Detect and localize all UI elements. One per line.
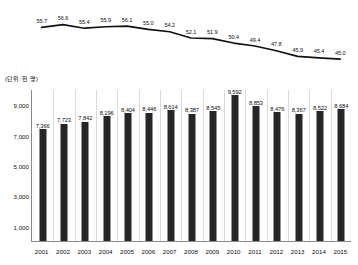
line-value-label: 55.9 xyxy=(100,19,111,25)
bar-value-label: 9,592 xyxy=(228,89,242,95)
gridline-vertical xyxy=(139,90,140,241)
x-axis-tick: 2004 xyxy=(99,248,113,255)
line-value-label: 45.9 xyxy=(292,48,303,54)
gridline-vertical xyxy=(245,90,246,241)
bar xyxy=(167,110,174,241)
bar-value-label: 8,404 xyxy=(121,107,135,113)
line-chart-panel: 55.756.655.455.956.155.054.252.151.950.4… xyxy=(0,0,358,68)
line-value-label: 56.6 xyxy=(58,17,69,23)
line-value-label: 50.4 xyxy=(228,35,239,41)
bar xyxy=(82,122,89,241)
bar xyxy=(210,111,217,241)
bar-value-label: 8,446 xyxy=(142,106,156,112)
x-axis-tick: 2012 xyxy=(269,248,283,255)
line-value-label: 47.8 xyxy=(271,43,282,49)
x-axis-tick: 2007 xyxy=(163,248,177,255)
gridline-vertical xyxy=(331,90,332,241)
y-axis-tick: 7,000 xyxy=(14,132,29,139)
gridline-vertical xyxy=(309,90,310,241)
bar xyxy=(125,113,132,241)
x-axis-tick: 2001 xyxy=(35,248,49,255)
x-axis-tick: 2011 xyxy=(248,248,261,255)
line-value-label: 54.2 xyxy=(164,24,175,30)
bar-value-label: 8,196 xyxy=(100,110,114,116)
bar-chart-panel: 1,0003,0005,0007,0009,0007,3667,7237,842… xyxy=(0,86,358,265)
trend-line-svg xyxy=(0,0,358,68)
x-axis-tick: 2015 xyxy=(333,248,347,255)
bar xyxy=(146,113,153,241)
bar xyxy=(295,114,302,241)
x-axis-tick: 2013 xyxy=(291,248,305,255)
x-axis-tick: 2008 xyxy=(184,248,198,255)
bar-value-label: 8,853 xyxy=(249,100,263,106)
gridline-vertical xyxy=(117,90,118,241)
x-axis-tick: 2002 xyxy=(56,248,70,255)
bar-value-label: 8,545 xyxy=(206,105,220,111)
bar xyxy=(253,106,260,241)
y-axis-tick: 3,000 xyxy=(14,193,29,200)
bar-value-label: 8,367 xyxy=(292,107,306,113)
y-axis-tick: 9,000 xyxy=(14,102,29,109)
line-value-label: 55.0 xyxy=(143,21,154,27)
gridline-vertical xyxy=(181,90,182,241)
gridline-vertical xyxy=(224,90,225,241)
bar-value-label: 8,522 xyxy=(313,105,327,111)
gridline-vertical xyxy=(96,90,97,241)
gridline-vertical xyxy=(160,90,161,241)
bar xyxy=(189,114,196,241)
line-value-label: 55.4 xyxy=(79,20,90,26)
bar xyxy=(39,129,46,241)
x-axis-tick: 2005 xyxy=(120,248,134,255)
bar xyxy=(338,109,345,241)
unit-caption: (단위: 천 명) xyxy=(5,74,38,83)
bar xyxy=(103,116,110,241)
bar-value-label: 8,684 xyxy=(334,103,348,109)
gridline-vertical xyxy=(288,90,289,241)
line-value-label: 49.4 xyxy=(250,38,261,44)
gridline-vertical xyxy=(267,90,268,241)
bar-value-label: 8,387 xyxy=(185,107,199,113)
line-value-label: 45.4 xyxy=(314,50,325,56)
x-axis-tick: 2014 xyxy=(312,248,326,255)
chart-root: 55.756.655.455.956.155.054.252.151.950.4… xyxy=(0,0,358,265)
line-value-label: 52.1 xyxy=(186,30,197,36)
y-axis-tick: 1,000 xyxy=(14,223,29,230)
line-value-label: 55.7 xyxy=(36,19,47,25)
bar-value-label: 8,614 xyxy=(164,104,178,110)
plot-area: 1,0003,0005,0007,0009,0007,3667,7237,842… xyxy=(31,90,351,242)
bar xyxy=(317,111,324,241)
x-axis-tick: 2003 xyxy=(77,248,91,255)
bar-value-label: 7,366 xyxy=(36,123,50,129)
line-value-label: 45.0 xyxy=(335,51,346,57)
bar xyxy=(61,124,68,241)
bar-value-label: 7,842 xyxy=(78,115,92,121)
gridline-vertical xyxy=(53,90,54,241)
bar xyxy=(231,95,238,241)
gridline-vertical xyxy=(75,90,76,241)
bar-value-label: 7,723 xyxy=(57,117,71,123)
x-axis-tick: 2006 xyxy=(141,248,155,255)
bar xyxy=(274,112,281,241)
gridline-vertical xyxy=(203,90,204,241)
bar-value-label: 8,476 xyxy=(270,106,284,112)
line-value-label: 51.9 xyxy=(207,30,218,36)
line-value-label: 56.1 xyxy=(122,18,133,24)
y-axis-tick: 5,000 xyxy=(14,163,29,170)
x-axis-tick: 2009 xyxy=(205,248,219,255)
x-axis-tick: 2010 xyxy=(227,248,241,255)
